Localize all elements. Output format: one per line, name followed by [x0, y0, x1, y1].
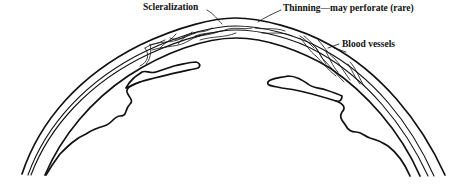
diagram-drawing — [0, 0, 465, 189]
right-iris — [268, 76, 342, 101]
inner-layer-line-2 — [31, 30, 428, 176]
left-ciliary-body — [46, 82, 140, 175]
label-thinning: Thinning—may perforate (rare) — [283, 4, 414, 14]
scleralization-leader-line — [207, 10, 222, 24]
label-blood-vessels: Blood vessels — [342, 40, 395, 50]
thinning-leader-line — [258, 10, 281, 22]
inner-corneal-surface — [45, 38, 420, 176]
eye-cross-section-diagram: Scleralization Thinning—may perforate (r… — [0, 0, 465, 189]
label-scleralization: Scleralization — [143, 3, 198, 13]
left-iris — [126, 62, 200, 88]
